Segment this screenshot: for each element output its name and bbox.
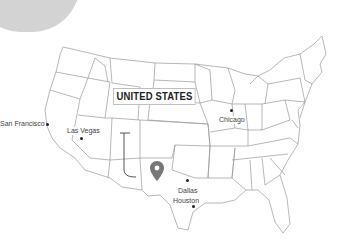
- city-dot-las-vegas[interactable]: [80, 137, 83, 140]
- city-dot-san-francisco[interactable]: [46, 123, 49, 126]
- pin-route-line: [118, 131, 158, 181]
- city-dot-chicago[interactable]: [230, 109, 233, 112]
- city-label-san-francisco[interactable]: San Francisco: [0, 120, 45, 128]
- city-label-dallas[interactable]: Dallas: [178, 187, 197, 195]
- city-dot-dallas[interactable]: [186, 179, 189, 182]
- city-label-houston[interactable]: Houston: [173, 197, 199, 205]
- city-dot-houston[interactable]: [192, 205, 195, 208]
- country-label: UNITED STATES: [113, 88, 196, 105]
- city-label-chicago[interactable]: Chicago: [219, 116, 245, 124]
- us-map[interactable]: UNITED STATES San Francisco Las Vegas Ch…: [0, 0, 337, 240]
- state-outlines: [0, 0, 337, 240]
- city-label-las-vegas[interactable]: Las Vegas: [67, 127, 100, 135]
